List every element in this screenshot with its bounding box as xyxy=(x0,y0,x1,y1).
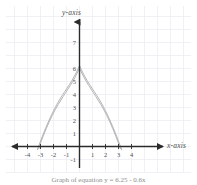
parabola-figure: -4 -3 -2 -1 1 2 3 4 -1 1 2 3 4 5 6 7 y-a… xyxy=(0,0,197,185)
plot-canvas: -4 -3 -2 -1 1 2 3 4 -1 1 2 3 4 5 6 7 xyxy=(0,0,197,185)
x-tick-label: -4 xyxy=(25,151,31,158)
y-tick-label: 3 xyxy=(73,104,76,111)
grid-lines xyxy=(6,6,191,173)
y-tick-label: 1 xyxy=(73,130,76,137)
x-tick-label: 4 xyxy=(130,151,134,158)
axes xyxy=(12,22,163,168)
x-tick-label: 3 xyxy=(117,151,120,158)
x-axis-title: x-axis xyxy=(167,141,186,150)
y-tick-labels: -1 1 2 3 4 5 6 7 xyxy=(71,39,77,163)
x-tick-label: 1 xyxy=(91,151,94,158)
y-tick-label: -1 xyxy=(71,156,76,163)
figure-caption: Graph of equation y = 6.25 - 0.6x xyxy=(0,176,197,184)
x-tick-label: -3 xyxy=(38,151,43,158)
y-axis-title: y-axis xyxy=(62,8,81,17)
x-tick-label: -1 xyxy=(64,151,69,158)
x-tick-label: -2 xyxy=(51,151,56,158)
x-tick-label: 2 xyxy=(104,151,107,158)
y-tick-label: 5 xyxy=(73,78,76,85)
y-tick-label: 2 xyxy=(73,117,76,124)
